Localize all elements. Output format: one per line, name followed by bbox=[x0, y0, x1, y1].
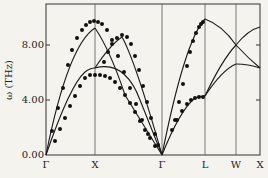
symmetry-lines bbox=[95, 4, 236, 155]
x-tick-gamma-2: Γ bbox=[159, 159, 166, 170]
y-tick-8: 8.00 bbox=[22, 39, 44, 50]
y-tick-0: 0.00 bbox=[22, 149, 44, 160]
phonon-dispersion-chart: 8.00 4.00 0.00 ω (THz) Γ X Γ L W X bbox=[0, 0, 268, 178]
y-tick-4: 4.00 bbox=[22, 94, 44, 105]
x-tick-x-2: X bbox=[256, 159, 264, 170]
experimental-points bbox=[50, 19, 205, 148]
x-tick-gamma-1: Γ bbox=[43, 159, 50, 170]
x-tick-x-1: X bbox=[91, 159, 99, 170]
x-tick-w: W bbox=[231, 159, 242, 170]
y-ticks bbox=[46, 45, 260, 100]
x-tick-l: L bbox=[202, 159, 209, 170]
y-axis-label: ω (THz) bbox=[3, 60, 14, 100]
